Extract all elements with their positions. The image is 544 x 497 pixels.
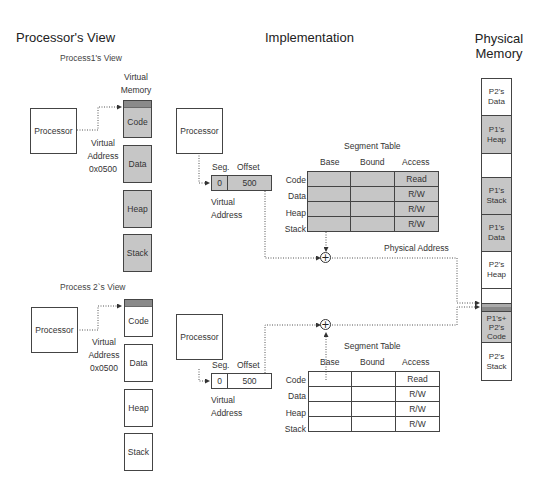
impl2-stack-base bbox=[309, 417, 352, 432]
impl2-col-access: Access bbox=[402, 357, 429, 367]
process1-view-title: Process1's View bbox=[60, 53, 122, 63]
segmentation-diagram: Processor's View Implementation Physical… bbox=[0, 0, 544, 497]
connector-lines bbox=[0, 0, 544, 497]
pm-block-p1-data: P1'sData bbox=[482, 215, 511, 252]
impl1-adder-icon: + bbox=[320, 252, 331, 263]
physical-memory-title-line2: Memory bbox=[471, 46, 527, 61]
pm-block-shared-code: P1's+P2'sCode bbox=[482, 312, 511, 343]
pm-block-text: P1's bbox=[486, 186, 506, 196]
pm-block-text: Stack bbox=[486, 362, 506, 372]
impl1-virtual-address-field: 0 500 bbox=[211, 175, 272, 191]
p1-segment-heap: Heap bbox=[123, 190, 152, 228]
impl1-code-base bbox=[308, 172, 351, 187]
impl1-code-access: Read bbox=[395, 172, 439, 187]
pm-block-text: P2's bbox=[486, 352, 506, 362]
p2-segment-data: Data bbox=[124, 344, 153, 382]
pm-block-text: P2's bbox=[488, 87, 505, 97]
pm-block-p2-stack: P2'sStack bbox=[482, 343, 511, 380]
impl2-heap-access: R/W bbox=[396, 402, 440, 417]
impl2-virtual-address-field: 0 500 bbox=[211, 373, 272, 389]
p1-processor-to-code-line bbox=[77, 107, 121, 130]
pm-block-text: Data bbox=[488, 233, 505, 243]
p1-segment-data: Data bbox=[123, 145, 152, 183]
impl1-virtual-address-label: Virtual Address bbox=[211, 196, 242, 222]
p2-segment-heap: Heap bbox=[124, 389, 153, 427]
impl2-segment-table: Read R/W R/W R/W bbox=[308, 371, 440, 432]
pm-block-free-2 bbox=[482, 289, 511, 304]
virtual-memory-label: Virtual Memory bbox=[118, 71, 154, 97]
impl1-row-code-label: Code bbox=[276, 175, 306, 185]
table-row: Read bbox=[308, 172, 439, 187]
impl2-code-base bbox=[309, 372, 352, 387]
impl1-seg-header: Seg. bbox=[212, 162, 230, 172]
pm-block-free-1 bbox=[482, 154, 511, 178]
p1-segment-code: Code bbox=[123, 100, 152, 138]
table-row: R/W bbox=[308, 202, 439, 217]
impl2-va-line2: Address bbox=[211, 407, 242, 420]
p2-va-value: 0x0500 bbox=[81, 362, 127, 375]
physical-address-label: Physical Address bbox=[384, 243, 449, 253]
impl2-virtual-address-label: Virtual Address bbox=[211, 394, 242, 420]
impl1-stack-base bbox=[308, 217, 351, 232]
impl1-data-bound bbox=[351, 187, 395, 202]
impl2-row-data-label: Data bbox=[276, 391, 306, 401]
pm-block-text: P1's bbox=[488, 223, 505, 233]
impl2-seg-header: Seg. bbox=[212, 360, 230, 370]
p1-processor-box: Processor bbox=[30, 108, 77, 154]
impl2-data-bound bbox=[352, 387, 396, 402]
impl2-adder-icon: + bbox=[320, 319, 331, 330]
impl2-offset-to-adder-line bbox=[265, 325, 320, 373]
impl1-data-base bbox=[308, 187, 351, 202]
impl2-row-stack-label: Stack bbox=[276, 424, 306, 434]
p2-segment-code: Code bbox=[124, 299, 153, 337]
pm-block-text: P2's bbox=[487, 323, 507, 332]
impl1-offset-value: 500 bbox=[228, 176, 271, 190]
impl1-data-access: R/W bbox=[395, 187, 439, 202]
impl1-offset-header: Offset bbox=[237, 162, 260, 172]
impl2-data-access: R/W bbox=[396, 387, 440, 402]
impl1-va-line1: Virtual bbox=[211, 196, 242, 209]
impl2-row-code-label: Code bbox=[276, 375, 306, 385]
pm-block-p1-stack: P1'sStack bbox=[482, 178, 511, 215]
p2-processor-to-code-line bbox=[77, 306, 121, 330]
table-row: Read bbox=[309, 372, 440, 387]
impl2-seg-value: 0 bbox=[212, 374, 228, 388]
impl1-segment-table-title: Segment Table bbox=[344, 141, 401, 151]
p2-virtual-address-label: Virtual Address 0x0500 bbox=[81, 336, 127, 375]
pm-block-text: P2's bbox=[487, 260, 506, 270]
pm-block-text: Data bbox=[488, 97, 505, 107]
table-row: R/W bbox=[309, 387, 440, 402]
impl2-stack-bound bbox=[352, 417, 396, 432]
p1-va-line1: Virtual bbox=[80, 137, 126, 150]
implementation-title: Implementation bbox=[265, 30, 354, 45]
p2-va-line2: Address bbox=[81, 349, 127, 362]
impl2-col-bound: Bound bbox=[360, 357, 385, 367]
processors-view-title: Processor's View bbox=[16, 30, 115, 45]
impl1-heap-bound bbox=[351, 202, 395, 217]
table-row: R/W bbox=[308, 217, 439, 232]
impl1-row-heap-label: Heap bbox=[276, 208, 306, 218]
virtual-memory-label-line1: Virtual bbox=[118, 71, 154, 84]
impl1-seg-value: 0 bbox=[212, 176, 228, 190]
impl2-col-base: Base bbox=[320, 357, 339, 367]
p1-segment-code-label: Code bbox=[127, 117, 147, 127]
table-row: R/W bbox=[309, 417, 440, 432]
table-row: R/W bbox=[308, 187, 439, 202]
p2-segment-stack: Stack bbox=[124, 433, 153, 471]
impl2-processor-to-address-line bbox=[199, 369, 209, 381]
table-row: R/W bbox=[309, 402, 440, 417]
impl1-processor-box: Processor bbox=[176, 108, 223, 154]
impl1-adder-to-memory-line bbox=[332, 258, 479, 303]
process2-view-title: Process 2`s View bbox=[60, 282, 126, 292]
p1-segment-stack: Stack bbox=[123, 234, 152, 272]
physical-memory-column: P2'sData P1'sHeap P1'sStack P1'sData P2'… bbox=[481, 78, 512, 381]
impl2-heap-bound bbox=[352, 402, 396, 417]
impl1-row-data-label: Data bbox=[276, 191, 306, 201]
p1-va-value: 0x0500 bbox=[80, 163, 126, 176]
impl1-heap-access: R/W bbox=[395, 202, 439, 217]
impl2-adder-to-memory-line bbox=[332, 307, 479, 325]
impl1-stack-access: R/W bbox=[395, 217, 439, 232]
impl1-code-bound bbox=[351, 172, 395, 187]
pm-block-text: Stack bbox=[486, 196, 506, 206]
impl2-heap-base bbox=[309, 402, 352, 417]
